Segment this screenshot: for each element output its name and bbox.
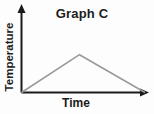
temperature-line: [22, 55, 146, 93]
x-axis-label: Time: [21, 96, 131, 110]
graph-card: Graph C Temperature Time: [0, 0, 154, 114]
y-axis-arrowhead-icon: [18, 4, 26, 13]
